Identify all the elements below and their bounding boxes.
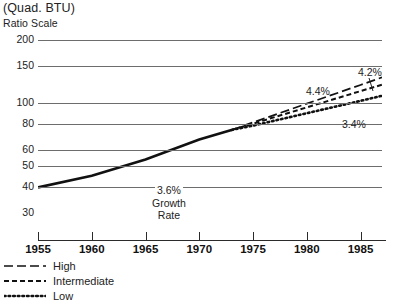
legend-item-label: Low — [53, 290, 73, 302]
x-tick — [146, 232, 147, 240]
legend-key-icon — [4, 261, 46, 271]
x-tick — [38, 232, 39, 240]
energy-projection-chart: (Quad. BTU) Ratio Scale 2001501008060504… — [0, 0, 411, 304]
gridline — [38, 150, 382, 151]
historical-rate-label: 3.6% — [155, 184, 183, 197]
plot-area — [38, 40, 382, 213]
series-line-historical — [38, 130, 232, 188]
y-tick-label: 150 — [16, 60, 34, 71]
x-tick — [361, 232, 362, 240]
annotation-intermediate-rate: 4.4% — [306, 85, 330, 97]
x-tick — [199, 232, 200, 240]
legend-key-icon — [4, 276, 46, 286]
annotation-low-rate: 3.4% — [342, 118, 366, 130]
x-tick — [92, 232, 93, 240]
legend-item-intermediate[interactable]: Intermediate — [4, 273, 204, 288]
gridline — [38, 187, 382, 188]
y-tick-label: 80 — [22, 118, 34, 129]
rate-word-label: Rate — [156, 209, 182, 222]
legend-item-low[interactable]: Low — [4, 288, 204, 303]
x-tick-label: 1955 — [25, 243, 51, 255]
gridline — [38, 124, 382, 125]
growth-word-label: Growth — [150, 197, 188, 210]
gridline — [38, 40, 382, 41]
y-tick-label: 40 — [22, 181, 34, 192]
gridline — [38, 103, 382, 104]
x-tick-label: 1975 — [240, 243, 266, 255]
y-tick-label: 200 — [16, 34, 34, 45]
y-tick-label: 100 — [16, 97, 34, 108]
annotation-high-rate: 4.2% — [358, 66, 382, 78]
x-tick-label: 1965 — [133, 243, 159, 255]
y-tick-label: 30 — [22, 207, 34, 218]
x-tick-label: 1970 — [186, 243, 212, 255]
x-tick-label: 1980 — [294, 243, 320, 255]
gridline — [38, 66, 382, 67]
chart-legend: HighIntermediateLow — [4, 258, 204, 303]
x-tick-label: 1985 — [348, 243, 374, 255]
y-tick-label: 50 — [22, 160, 34, 171]
legend-item-high[interactable]: High — [4, 258, 204, 273]
y-tick-label: 60 — [22, 144, 34, 155]
x-axis-line — [38, 240, 386, 241]
legend-key-icon — [4, 291, 46, 301]
x-tick — [307, 232, 308, 240]
gridline — [38, 166, 382, 167]
x-tick-label: 1960 — [79, 243, 105, 255]
legend-item-label: Intermediate — [53, 275, 114, 287]
growth-rate-annotation: 3.6% Growth Rate — [150, 184, 188, 222]
x-tick — [253, 232, 254, 240]
legend-item-label: High — [53, 260, 76, 272]
